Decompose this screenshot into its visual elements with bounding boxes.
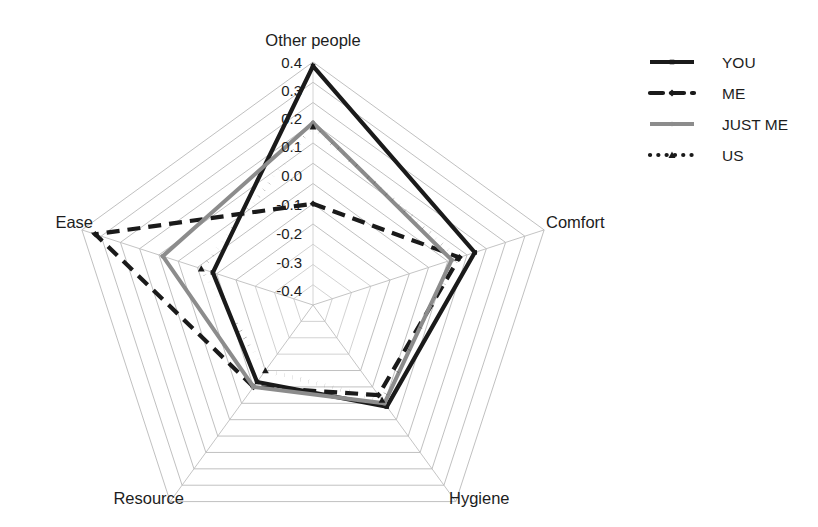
series-marker (311, 64, 315, 68)
series-marker (375, 392, 382, 399)
tick-label-0: 0.4 (281, 54, 302, 71)
series-marker (670, 122, 675, 127)
series-marker (449, 258, 454, 263)
series-line (201, 127, 457, 400)
series-line (163, 123, 452, 404)
tick-label-7: -0.3 (276, 254, 302, 271)
axis-title-other-people: Other people (265, 31, 360, 49)
legend-item-just-me[interactable]: JUST ME (650, 116, 788, 133)
series-marker (255, 380, 259, 384)
axis-spoke-comfort (313, 230, 544, 305)
tick-label-2: 0.2 (281, 110, 302, 127)
legend-label: US (722, 147, 744, 164)
series-marker (160, 254, 165, 259)
series-marker (473, 250, 477, 254)
series-marker (670, 60, 675, 65)
legend-label: JUST ME (722, 116, 788, 133)
series-marker (251, 385, 256, 390)
legend-item-us[interactable]: US (650, 147, 744, 164)
radar-chart-canvas: Other people Comfort Hygiene Resource Ea… (0, 0, 818, 527)
axis-title-resource: Resource (113, 489, 184, 507)
tick-label-4: 0.0 (281, 167, 302, 184)
tick-label-8: -0.4 (276, 282, 302, 299)
tick-label-6: -0.2 (276, 225, 302, 242)
tick-label-3: 0.1 (281, 138, 302, 155)
legend-label: ME (722, 85, 745, 102)
series-marker (669, 90, 676, 97)
axis-title-hygiene: Hygiene (449, 489, 510, 507)
series-you (211, 64, 477, 409)
axis-title-ease: Ease (55, 213, 93, 231)
chart-legend: YOUMEJUST MEUS (650, 54, 788, 164)
legend-label: YOU (722, 54, 756, 71)
legend-item-me[interactable]: ME (650, 85, 745, 102)
series-line (213, 66, 475, 407)
series-marker (211, 270, 215, 274)
radar-chart-figure: Other people Comfort Hygiene Resource Ea… (0, 0, 818, 527)
tick-label-5: -0.1 (276, 196, 302, 213)
tick-label-1: 0.3 (281, 82, 302, 99)
legend-item-you[interactable]: YOU (650, 54, 756, 71)
axis-title-comfort: Comfort (546, 213, 605, 231)
